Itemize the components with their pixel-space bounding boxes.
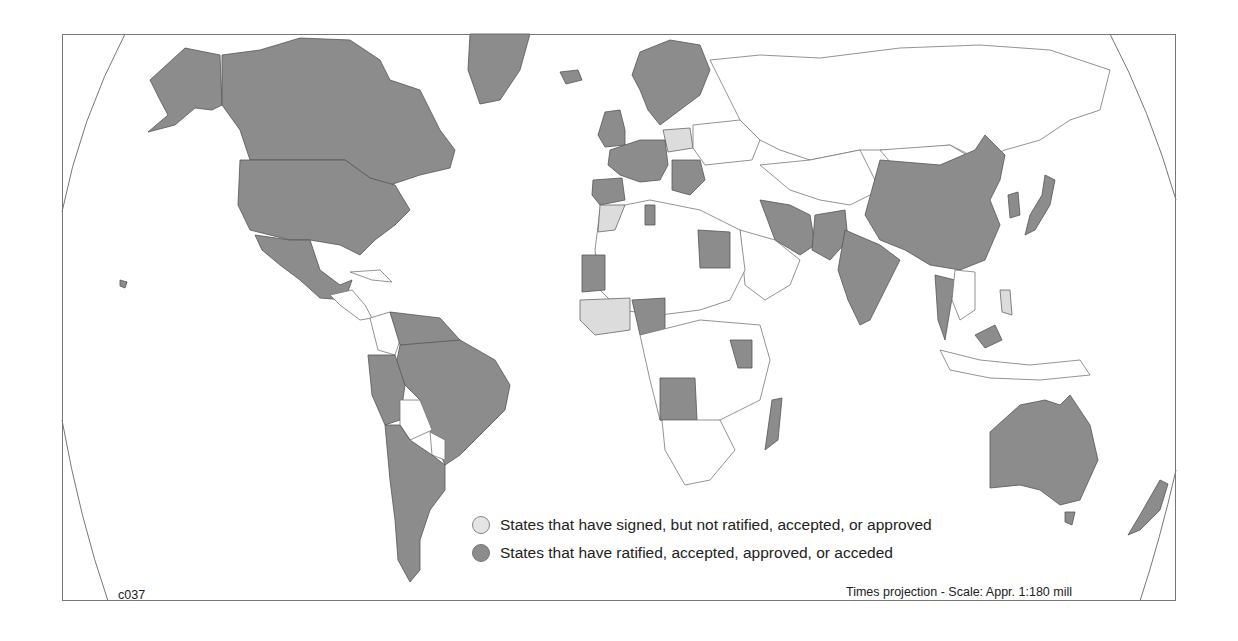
- map-code: c037: [118, 588, 145, 602]
- signed-swatch-icon: [472, 516, 490, 534]
- legend-label-ratified: States that have ratified, accepted, app…: [500, 544, 893, 562]
- legend-item-signed: States that have signed, but not ratifie…: [472, 511, 932, 539]
- ratified-swatch-icon: [472, 544, 490, 562]
- legend-item-ratified: States that have ratified, accepted, app…: [472, 539, 932, 567]
- map-legend: States that have signed, but not ratifie…: [472, 511, 932, 567]
- projection-note: Times projection - Scale: Appr. 1:180 mi…: [846, 585, 1072, 599]
- legend-label-signed: States that have signed, but not ratifie…: [500, 516, 932, 534]
